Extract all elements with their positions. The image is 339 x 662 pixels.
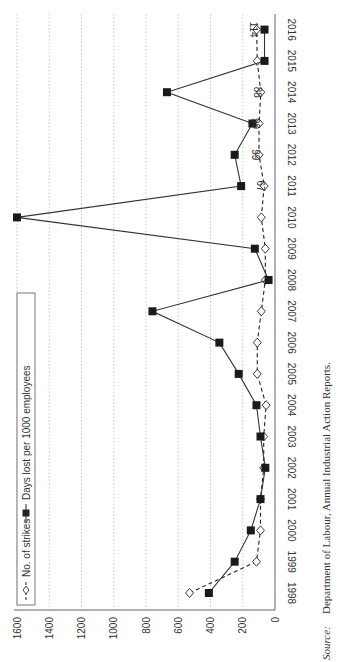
- tick-label: 200: [237, 617, 248, 634]
- year-label: 2005: [286, 363, 297, 386]
- year-label: 2013: [286, 112, 297, 135]
- source-text: Department of Labour, Annual Industrial …: [320, 362, 332, 614]
- strikes-marker: [257, 213, 265, 222]
- year-axis-ticks: 1998199920002001200220032004200520062007…: [286, 18, 297, 604]
- series-days-lost: [13, 26, 273, 597]
- value-axis-ticks: 02004006008001000120014001600: [12, 617, 281, 640]
- strikes-marker: [252, 557, 260, 566]
- strikes-marker: [253, 338, 261, 347]
- days-lost-marker: [231, 151, 239, 159]
- year-label: 2014: [286, 81, 297, 104]
- year-label: 2000: [286, 519, 297, 542]
- days-lost-marker: [261, 57, 269, 65]
- data-label: 99: [250, 118, 261, 130]
- tick-label: 400: [205, 617, 216, 634]
- days-lost-marker: [215, 339, 223, 347]
- strikes-marker: [261, 244, 269, 253]
- source-note: Source: Department of Labour, Annual Ind…: [320, 362, 332, 660]
- data-label: 99: [250, 149, 261, 161]
- strikes-chart: 02004006008001000120014001600 1998199920…: [0, 0, 339, 662]
- year-label: 2006: [286, 331, 297, 354]
- days-lost-marker: [148, 307, 156, 315]
- tick-label: 1200: [76, 617, 87, 640]
- year-label: 2011: [286, 175, 297, 197]
- strikes-marker: [186, 589, 194, 598]
- year-label: 2010: [286, 206, 297, 229]
- year-label: 2012: [286, 144, 297, 167]
- days-lost-marker: [231, 558, 239, 566]
- year-label: 1999: [286, 551, 297, 574]
- tick-label: 1000: [108, 617, 119, 640]
- days-lost-marker: [256, 433, 264, 441]
- data-label: 88: [252, 87, 263, 99]
- days-lost-marker: [247, 526, 255, 534]
- source-label: Source:: [320, 626, 332, 660]
- tick-label: 0: [270, 617, 281, 623]
- year-label: 2008: [286, 269, 297, 292]
- year-label: 2016: [286, 18, 297, 41]
- year-label: 2015: [286, 50, 297, 73]
- data-label: 114: [248, 22, 259, 38]
- year-label: 2002: [286, 457, 297, 480]
- days-lost-marker: [235, 370, 243, 378]
- year-label: 2001: [286, 488, 297, 511]
- legend-label-strikes: No. of strikes: [21, 519, 32, 577]
- legend: No. of strikes Days lost per 1000 employ…: [17, 293, 35, 605]
- days-lost-marker: [205, 589, 213, 597]
- strikes-marker: [262, 401, 270, 410]
- tick-label: 1600: [12, 617, 23, 640]
- days-lost-marker: [261, 464, 269, 472]
- gridlines: [17, 14, 243, 610]
- year-label: 2009: [286, 238, 297, 261]
- year-label: 2004: [286, 394, 297, 417]
- days-lost-marker: [261, 26, 269, 34]
- tick-label: 1400: [44, 617, 55, 640]
- year-label: 2007: [286, 300, 297, 323]
- tick-label: 800: [141, 617, 152, 634]
- series-strikes: [186, 25, 271, 597]
- days-lost-marker: [237, 182, 245, 190]
- year-label: 2003: [286, 425, 297, 448]
- days-lost-marker: [163, 88, 171, 96]
- strikes-marker: [253, 369, 261, 378]
- days-lost-marker: [251, 245, 259, 253]
- days-lost-marker: [256, 495, 264, 503]
- axes: [14, 14, 275, 610]
- days-lost-marker: [265, 276, 273, 284]
- legend-label-days-lost: Days lost per 1000 employees: [21, 365, 32, 500]
- strikes-marker: [257, 307, 265, 316]
- year-label: 1998: [286, 582, 297, 605]
- data-label: 67: [255, 181, 266, 193]
- strikes-marker: [256, 526, 264, 535]
- days-lost-marker: [13, 213, 21, 221]
- days-lost-marker: [252, 401, 260, 409]
- tick-label: 600: [173, 617, 184, 634]
